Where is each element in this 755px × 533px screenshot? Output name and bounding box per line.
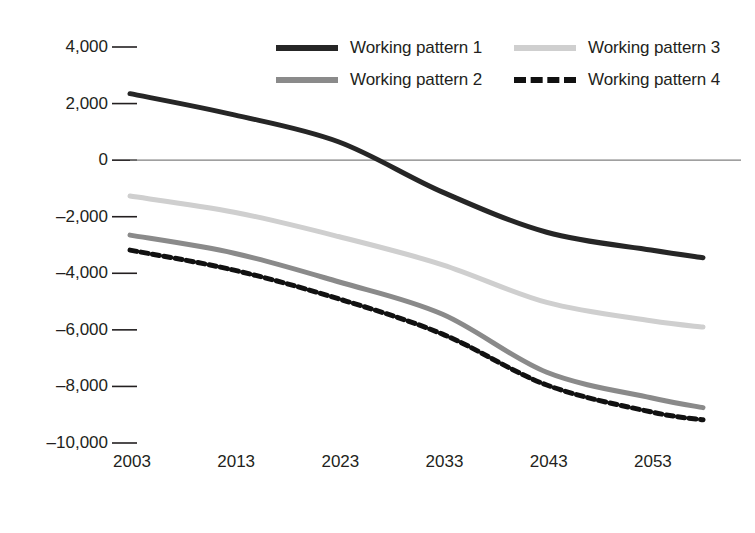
x-tick-label: 2023 [321, 452, 359, 472]
axis-ticks [112, 47, 137, 443]
y-tick-label: –2,000 [56, 207, 108, 227]
y-tick-label: 4,000 [65, 37, 108, 57]
y-tick-label: –6,000 [56, 320, 108, 340]
y-tick-label: –4,000 [56, 263, 108, 283]
series-line-working-pattern-4 [130, 250, 703, 420]
x-tick-label: 2043 [530, 452, 568, 472]
x-tick-label: 2013 [217, 452, 255, 472]
chart-container: Working pattern 1 Working pattern 3 Work… [0, 0, 755, 533]
data-series [130, 94, 703, 420]
series-line-working-pattern-2 [130, 235, 703, 408]
y-tick-label: 2,000 [65, 94, 108, 114]
y-tick-label: –8,000 [56, 376, 108, 396]
series-line-working-pattern-3 [130, 196, 703, 327]
x-tick-label: 2053 [634, 452, 672, 472]
x-tick-label: 2033 [426, 452, 464, 472]
x-tick-label: 2003 [113, 452, 151, 472]
y-tick-label: 0 [99, 150, 108, 170]
series-line-working-pattern-1 [130, 94, 703, 258]
y-tick-label: –10,000 [47, 433, 108, 453]
